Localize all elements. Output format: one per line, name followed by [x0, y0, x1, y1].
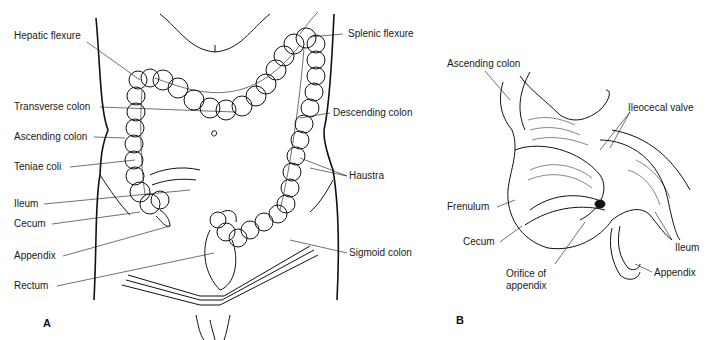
label-ileum: Ileum	[14, 198, 38, 210]
label-cecum: Cecum	[14, 218, 46, 230]
label-orifice-of-appendix-line1: Orifice of	[506, 268, 546, 280]
label-sigmoid-colon: Sigmoid colon	[349, 247, 412, 259]
panel-letter-a: A	[43, 317, 51, 329]
label-frenulum: Frenulum	[447, 201, 489, 213]
label-ileocecal-valve: Ileocecal valve	[628, 102, 694, 114]
label-teniae-coli: Teniae coli	[14, 161, 61, 173]
label-rectum: Rectum	[14, 280, 48, 292]
label-appendix: Appendix	[14, 250, 56, 262]
label-orifice-of-appendix-line2: appendix	[506, 280, 547, 292]
panel-letter-b: B	[456, 314, 464, 326]
label-hepatic-flexure: Hepatic flexure	[14, 30, 81, 42]
label-appendix-b: Appendix	[654, 267, 696, 279]
label-haustra: Haustra	[349, 170, 384, 182]
label-ascending-colon: Ascending colon	[14, 131, 87, 143]
label-ileum-b: Ileum	[675, 242, 699, 254]
label-cecum-b: Cecum	[463, 236, 495, 248]
label-ascending-colon-b: Ascending colon	[447, 58, 520, 70]
label-splenic-flexure: Splenic flexure	[348, 28, 414, 40]
label-transverse-colon: Transverse colon	[14, 101, 90, 113]
label-descending-colon: Descending colon	[333, 107, 413, 119]
